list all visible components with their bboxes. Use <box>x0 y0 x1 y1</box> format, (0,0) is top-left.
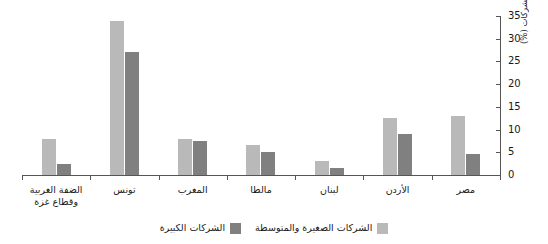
y-tick-mark <box>496 107 501 108</box>
x-tick <box>432 175 433 180</box>
x-axis-label-line: مصر <box>411 184 521 196</box>
legend-item: الشركات الصغيرة والمتوسطة <box>255 222 388 234</box>
y-tick-mark <box>496 84 501 85</box>
bar-pair <box>227 16 295 175</box>
plot-area <box>22 16 500 175</box>
bar-sme <box>246 145 260 175</box>
bar-large <box>125 52 139 175</box>
y-tick-mark <box>496 152 501 153</box>
y-tick-label: 5 <box>508 145 514 158</box>
x-tick <box>295 175 296 180</box>
x-tick <box>159 175 160 180</box>
y-tick-label: 15 <box>508 100 521 113</box>
bar-large <box>261 152 275 175</box>
y-tick-mark <box>496 130 501 131</box>
legend-label: الشركات الصغيرة والمتوسطة <box>255 222 372 234</box>
bar-sme <box>42 139 56 175</box>
bar-large <box>57 164 71 175</box>
x-tick <box>500 175 501 180</box>
bar-sme <box>451 116 465 175</box>
bar-large <box>193 141 207 175</box>
bar-group <box>22 16 90 175</box>
legend-swatch <box>230 223 241 234</box>
bar-pair <box>90 16 158 175</box>
y-tick-label: 10 <box>508 123 521 136</box>
bar-sme <box>178 139 192 175</box>
bar-sme <box>110 21 124 175</box>
y-tick-label: 20 <box>508 77 521 90</box>
x-axis-label-line: وقطاع غزة <box>1 196 111 208</box>
y-tick-label: 25 <box>508 54 521 67</box>
y-tick-mark <box>496 39 501 40</box>
bar-pair <box>363 16 431 175</box>
bar-pair <box>159 16 227 175</box>
bar-large <box>330 168 344 175</box>
bar-sme <box>383 118 397 175</box>
bar-group <box>90 16 158 175</box>
y-axis-title: نسبة جميع الشركات (%) <box>519 0 530 44</box>
bar-group <box>295 16 363 175</box>
x-axis-label: مصر <box>411 184 521 196</box>
y-tick-mark <box>496 16 501 17</box>
bar-group <box>432 16 500 175</box>
legend-swatch <box>377 223 388 234</box>
x-axis-line <box>22 175 500 176</box>
bar-group <box>363 16 431 175</box>
x-tick <box>227 175 228 180</box>
bar-chart: 05101520253035 الضفة الغربيةوقطاع غزةتون… <box>0 0 548 244</box>
bar-pair <box>295 16 363 175</box>
chart-legend: الشركات الصغيرة والمتوسطةالشركات الكبيرة <box>0 222 548 234</box>
bar-group <box>227 16 295 175</box>
y-tick-label: 0 <box>508 168 514 181</box>
legend-label: الشركات الكبيرة <box>160 222 225 234</box>
y-tick-mark <box>496 61 501 62</box>
bar-group <box>159 16 227 175</box>
x-tick <box>90 175 91 180</box>
x-tick <box>363 175 364 180</box>
bar-pair <box>432 16 500 175</box>
bar-large <box>398 134 412 175</box>
bar-large <box>466 154 480 175</box>
legend-item: الشركات الكبيرة <box>160 222 241 234</box>
bar-sme <box>315 161 329 175</box>
x-tick <box>22 175 23 180</box>
bar-pair <box>22 16 90 175</box>
